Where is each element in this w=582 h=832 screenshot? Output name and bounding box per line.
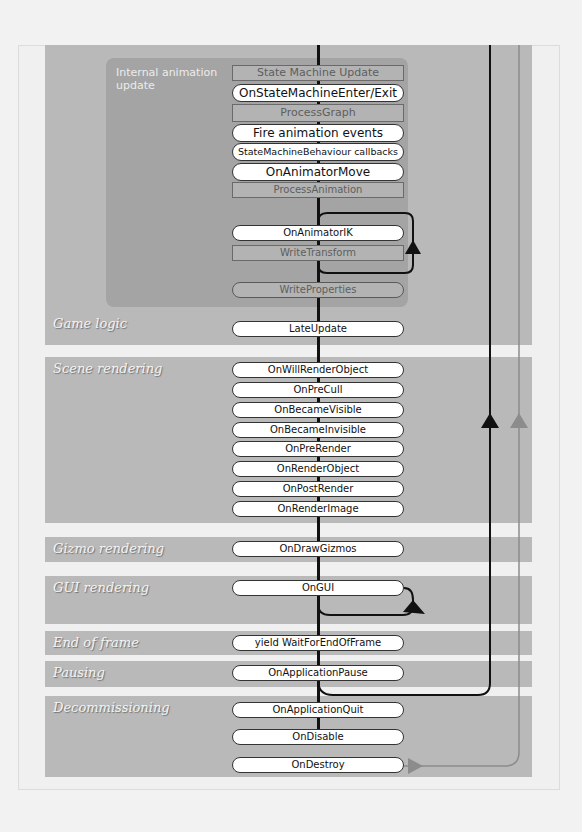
- callback-on-became-visible: OnBecameVisible: [232, 402, 404, 418]
- callback-on-destroy: OnDestroy: [232, 757, 404, 773]
- callback-on-state-machine-enter-exit: OnStateMachineEnter/Exit: [232, 84, 404, 102]
- section-label-end-of-frame: End of frame: [53, 635, 139, 650]
- callback-on-post-render: OnPostRender: [232, 481, 404, 497]
- step-write-properties: WriteProperties: [232, 282, 404, 298]
- step-write-transform: WriteTransform: [232, 245, 404, 261]
- callback-on-disable: OnDisable: [232, 729, 404, 745]
- section-label-gui-rendering: GUI rendering: [53, 580, 149, 595]
- callback-late-update: LateUpdate: [232, 321, 404, 337]
- callback-on-render-image: OnRenderImage: [232, 501, 404, 517]
- callback-yield-wait-for-end-of-frame: yield WaitForEndOfFrame: [232, 635, 404, 651]
- step-process-animation: ProcessAnimation: [232, 182, 404, 198]
- callback-on-application-quit: OnApplicationQuit: [232, 702, 404, 718]
- callback-state-machine-behaviour: StateMachineBehaviour callbacks: [232, 143, 404, 161]
- section-label-gizmo-rendering: Gizmo rendering: [53, 541, 164, 556]
- callback-on-gui: OnGUI: [232, 580, 404, 596]
- callback-on-animator-move: OnAnimatorMove: [232, 163, 404, 181]
- callback-on-draw-gizmos: OnDrawGizmos: [232, 541, 404, 557]
- section-label-internal-animation: Internal animation update: [116, 66, 226, 92]
- callback-on-will-render-object: OnWillRenderObject: [232, 362, 404, 378]
- callback-on-animator-ik: OnAnimatorIK: [232, 225, 404, 241]
- step-state-machine-update: State Machine Update: [232, 65, 404, 81]
- callback-on-pre-render: OnPreRender: [232, 441, 404, 457]
- section-label-scene-rendering: Scene rendering: [53, 361, 162, 376]
- callback-on-became-invisible: OnBecameInvisible: [232, 422, 404, 438]
- callback-on-pre-cull: OnPreCull: [232, 382, 404, 398]
- section-label-game-logic: Game logic: [53, 316, 127, 331]
- section-label-pausing: Pausing: [53, 665, 105, 680]
- callback-on-render-object: OnRenderObject: [232, 461, 404, 477]
- step-process-graph: ProcessGraph: [232, 104, 404, 122]
- callback-on-application-pause: OnApplicationPause: [232, 665, 404, 681]
- section-label-decommissioning: Decommissioning: [53, 700, 170, 715]
- callback-fire-animation-events: Fire animation events: [232, 124, 404, 142]
